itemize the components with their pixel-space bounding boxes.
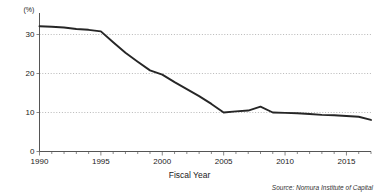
line-chart-canvas (0, 0, 379, 195)
x-tick-label: 1990 (25, 157, 55, 166)
y-tick-label: 10 (17, 108, 35, 117)
x-tick-label: 2005 (209, 157, 239, 166)
x-tick-label: 2010 (270, 157, 300, 166)
x-axis-title: Fiscal Year (0, 170, 379, 180)
y-tick-label: 0 (17, 147, 35, 156)
y-tick-label: 20 (17, 69, 35, 78)
x-tick-label: 1995 (86, 157, 116, 166)
x-tick-label: 2015 (331, 157, 361, 166)
x-tick-label: 2000 (147, 157, 177, 166)
data-series-line (40, 26, 372, 120)
source-note: Source: Nomura Institute of Capital (272, 184, 373, 191)
y-tick-label: 30 (17, 30, 35, 39)
axis-ticks-group (37, 35, 372, 156)
chart-figure: (%) 0102030 199019952000200520102015 Fis… (0, 0, 379, 195)
